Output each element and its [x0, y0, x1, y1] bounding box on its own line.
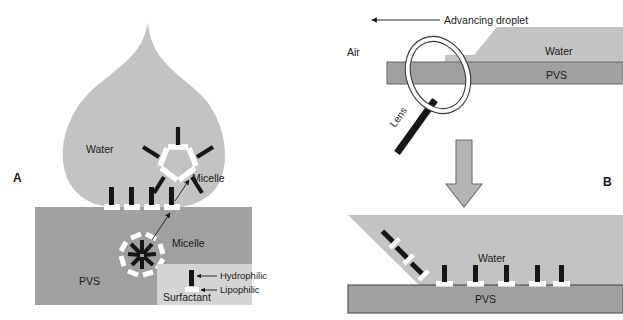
panel-a-water-label: Water — [86, 143, 114, 155]
panel-b-detail-water — [348, 215, 623, 286]
hydrophilic-tail — [535, 265, 540, 282]
panel-b-pvs-label: PVS — [546, 69, 567, 81]
hydrophilic-tail — [473, 265, 478, 282]
legend-hydrophilic-label: Hydrophilic — [220, 270, 267, 281]
panel-b-detail-view: Water PVS — [348, 215, 623, 313]
panel-b-air-label: Air — [347, 46, 360, 58]
legend-title: Surfactant — [163, 291, 211, 303]
hydrophilic-tail — [129, 187, 134, 205]
panel-a-water-micelle-label: Micelle — [192, 172, 225, 184]
hydrophilic-tail — [559, 265, 564, 282]
panel-b-group: Advancing droplet Air Water PVS — [347, 14, 623, 313]
panel-a-pvs-label: PVS — [79, 275, 100, 287]
hydrophilic-tail — [442, 265, 447, 282]
advancing-droplet-label: Advancing droplet — [444, 14, 528, 26]
panel-a-letter: A — [13, 171, 22, 185]
hydrophilic-tail — [504, 265, 509, 282]
legend-lipophilic-label: Lipophilic — [220, 284, 260, 295]
panel-b-letter: B — [603, 175, 612, 189]
hydrophilic-tail — [128, 254, 140, 255]
panel-b-detail-pvs-label: PVS — [475, 293, 496, 305]
hydrophilic-tail — [149, 187, 154, 205]
figure-canvas: Water PVS A — [0, 0, 623, 320]
panel-a-group: Water PVS A — [13, 22, 267, 305]
lens-label: Lens — [388, 105, 409, 129]
hydrophilic-tail — [169, 187, 174, 205]
down-arrow-shape — [446, 140, 482, 207]
hydrophilic-tail — [189, 270, 194, 286]
panel-b-water-label: Water — [545, 45, 573, 57]
figure-root: Water PVS A — [0, 0, 623, 320]
hydrophilic-tail — [109, 187, 114, 205]
panel-a-surfactant-legend: Hydrophilic Lipophilic Surfactant — [157, 264, 267, 305]
panel-a-pvs-micelle-label: Micelle — [172, 237, 205, 249]
panel-b-top-view: Advancing droplet Air Water PVS — [347, 14, 623, 153]
hydrophilic-tail — [144, 254, 156, 255]
panel-b-pvs-slab — [387, 62, 623, 84]
panel-b-transition-arrow — [446, 140, 482, 207]
panel-b-detail-water-label: Water — [478, 252, 506, 264]
